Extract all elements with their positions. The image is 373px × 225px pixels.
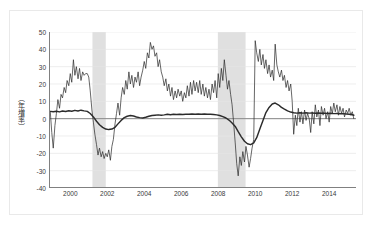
x-tick-label-2000: 2000	[63, 190, 77, 197]
recession-band-2001	[92, 32, 105, 188]
y-tick-label-10: 10	[20, 98, 46, 105]
y-axis-tick-labels: 50403020100-10-20-30-40	[17, 32, 46, 188]
x-tick-label-2012: 2012	[285, 190, 299, 197]
x-tick-label-2010: 2010	[248, 190, 262, 197]
x-tick-label-2004: 2004	[137, 190, 151, 197]
x-tick-label-2008: 2008	[211, 190, 225, 197]
y-tick-label-40: 40	[20, 46, 46, 53]
chart-figure: （年増率） 50403020100-10-20-30-40 2000200220…	[0, 0, 373, 225]
y-tick-label-50: 50	[20, 29, 46, 36]
y-tick-label--20: -20	[20, 150, 46, 157]
y-tick-label--40: -40	[20, 185, 46, 192]
x-tick-label-2014: 2014	[322, 190, 336, 197]
y-tick-label--10: -10	[20, 133, 46, 140]
plot-area	[49, 32, 356, 188]
chart-svg	[49, 32, 356, 188]
x-tick-label-2006: 2006	[174, 190, 188, 197]
y-tick-label--30: -30	[20, 167, 46, 174]
y-tick-label-20: 20	[20, 81, 46, 88]
y-tick-label-30: 30	[20, 63, 46, 70]
x-tick-label-2002: 2002	[100, 190, 114, 197]
x-axis-tick-labels: 20002002200420062008201020122014	[49, 190, 356, 204]
y-tick-label-0: 0	[20, 115, 46, 122]
